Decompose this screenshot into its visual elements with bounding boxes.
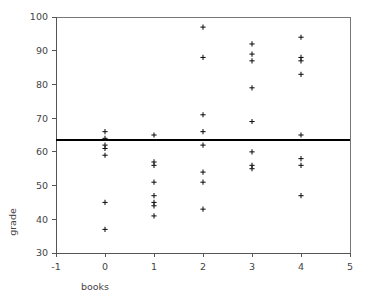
- data-point-marker: [151, 203, 156, 208]
- data-point-marker: [151, 180, 156, 185]
- data-point-marker: [298, 156, 303, 161]
- data-point-marker: [200, 55, 205, 60]
- data-point-marker: [298, 72, 303, 77]
- y-tick-label: 40: [36, 214, 48, 225]
- y-tick-label: 90: [36, 45, 48, 56]
- data-point-marker: [298, 193, 303, 198]
- data-point-marker: [151, 213, 156, 218]
- data-point-marker: [298, 132, 303, 137]
- x-tick-label: 1: [151, 261, 157, 272]
- data-point-marker: [298, 163, 303, 168]
- data-point-marker: [249, 119, 254, 124]
- data-points: [102, 25, 303, 232]
- data-point-marker: [200, 207, 205, 212]
- data-point-marker: [249, 85, 254, 90]
- y-axis-label: grade: [7, 208, 18, 236]
- x-tick-label: -1: [51, 261, 60, 272]
- data-point-marker: [151, 163, 156, 168]
- x-axis-label: books: [81, 281, 109, 292]
- y-tick-label: 80: [36, 79, 48, 90]
- data-point-marker: [102, 153, 107, 158]
- data-point-marker: [200, 25, 205, 30]
- y-tick-label: 70: [36, 113, 48, 124]
- data-point-marker: [200, 129, 205, 134]
- data-point-marker: [102, 227, 107, 232]
- x-tick-label: 4: [298, 261, 304, 272]
- data-point-marker: [249, 149, 254, 154]
- data-point-marker: [151, 132, 156, 137]
- plot-canvas: 30405060708090100 -1012345 grade books: [0, 0, 368, 307]
- data-point-marker: [102, 146, 107, 151]
- data-point-marker: [102, 200, 107, 205]
- x-tick-label: 3: [249, 261, 255, 272]
- y-tick-label: 60: [36, 146, 48, 157]
- x-axis-ticks: -1012345: [51, 253, 353, 272]
- x-tick-label: 5: [347, 261, 353, 272]
- y-tick-label: 30: [36, 247, 48, 258]
- y-tick-label: 50: [36, 180, 48, 191]
- data-point-marker: [200, 169, 205, 174]
- y-tick-label: 100: [30, 11, 48, 22]
- data-point-marker: [249, 58, 254, 63]
- data-point-marker: [298, 35, 303, 40]
- y-axis-ticks: 30405060708090100: [30, 11, 56, 258]
- data-point-marker: [249, 51, 254, 56]
- data-point-marker: [200, 112, 205, 117]
- data-point-marker: [200, 143, 205, 148]
- data-point-marker: [298, 58, 303, 63]
- data-point-marker: [249, 41, 254, 46]
- x-tick-label: 0: [102, 261, 108, 272]
- plot-frame: [56, 17, 350, 253]
- x-tick-label: 2: [200, 261, 206, 272]
- data-point-marker: [249, 166, 254, 171]
- scatter-plot-figure: 30405060708090100 -1012345 grade books: [0, 0, 368, 307]
- data-point-marker: [200, 180, 205, 185]
- data-point-marker: [102, 129, 107, 134]
- data-point-marker: [151, 193, 156, 198]
